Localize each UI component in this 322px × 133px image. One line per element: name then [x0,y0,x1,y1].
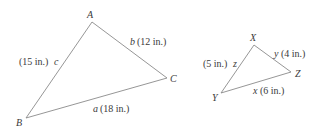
vertex-label-a: A [86,9,94,20]
side-x-letter: x [252,85,258,96]
side-b-letter: b [130,36,135,47]
vertex-label-b: B [16,117,22,128]
side-x-length: (6 in.) [260,85,284,97]
side-z-letter: z [232,58,237,69]
side-z-length: (5 in.) [203,58,227,70]
side-c-length: (15 in.) [19,56,48,68]
side-c-letter: c [54,56,59,67]
vertex-label-z: Z [295,68,301,79]
side-b-length: (12 in.) [137,36,166,48]
vertex-label-c: C [170,73,177,84]
triangle-abc: A B C (15 in.) c b (12 in.) a (18 in.) [16,9,177,128]
similar-triangles-diagram: A B C (15 in.) c b (12 in.) a (18 in.) X… [0,0,322,133]
vertex-label-x: X [249,32,257,43]
side-a-letter: a [93,103,98,114]
side-a-length: (18 in.) [100,103,129,115]
vertex-label-y: Y [212,92,219,103]
triangle-xyz: X Y Z (5 in.) z y (4 in.) x (6 in.) [203,32,305,103]
side-y-letter: y [273,48,279,59]
side-y-length: (4 in.) [281,48,305,60]
